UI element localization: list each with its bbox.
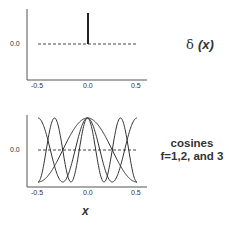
cos-ytick-0: 0.0 [10, 146, 20, 153]
cosines-panel: 0.0 -0.5 0.0 0.5 [10, 115, 147, 196]
cosines-label: cosines f=1,2, and 3 [160, 137, 224, 163]
cos-xtick-pos: 0.5 [131, 189, 141, 196]
cosine-f3 [38, 118, 137, 182]
delta-ytick-0: 0.0 [10, 40, 20, 47]
delta-label: δ (x) [186, 37, 214, 52]
delta-xtick-pos: 0.5 [131, 82, 141, 89]
delta-xtick-zero: 0.0 [83, 82, 93, 89]
cosines-label-line1: cosines [160, 137, 224, 150]
cosine-f1 [38, 118, 137, 182]
x-axis-label: x [82, 204, 89, 218]
cosine-f2 [38, 118, 137, 182]
delta-panel: 0.0 -0.5 0.0 0.5 [10, 9, 147, 89]
cosines-label-line2: f=1,2, and 3 [160, 150, 224, 163]
delta-symbol: δ [186, 37, 194, 52]
figure-canvas: 0.0 -0.5 0.0 0.5 0.0 -0.5 0.0 0.5 [0, 0, 229, 231]
delta-xtick-neg: -0.5 [31, 82, 43, 89]
delta-arg: (x) [198, 37, 214, 52]
cos-xtick-neg: -0.5 [31, 189, 43, 196]
cos-xtick-zero: 0.0 [83, 189, 93, 196]
